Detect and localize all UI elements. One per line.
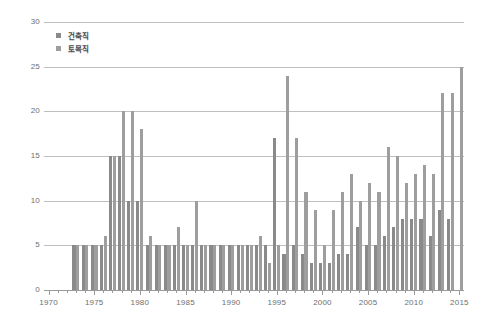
x-axis-tick bbox=[322, 290, 323, 295]
bar bbox=[359, 201, 362, 290]
bar-group bbox=[437, 22, 446, 290]
bar-group bbox=[327, 22, 336, 290]
x-axis-tick bbox=[131, 290, 132, 293]
bar bbox=[374, 245, 377, 290]
x-axis-tick-label: 1970 bbox=[29, 298, 69, 307]
x-axis-tick bbox=[368, 290, 369, 295]
bar-group bbox=[217, 22, 226, 290]
bar bbox=[246, 245, 249, 290]
bar bbox=[250, 245, 253, 290]
bar bbox=[310, 263, 313, 290]
bar bbox=[365, 245, 368, 290]
x-axis-tick bbox=[231, 290, 232, 295]
bar-group bbox=[181, 22, 190, 290]
bar bbox=[350, 174, 353, 290]
x-axis-tick bbox=[167, 290, 168, 293]
bar bbox=[273, 138, 276, 290]
bar-group bbox=[446, 22, 455, 290]
bar-group bbox=[163, 22, 172, 290]
y-axis-tick-label: 20 bbox=[6, 107, 40, 115]
x-axis-tick bbox=[286, 290, 287, 293]
bar bbox=[91, 245, 94, 290]
x-axis-tick bbox=[441, 290, 442, 293]
bar bbox=[155, 245, 158, 290]
x-axis-tick bbox=[186, 290, 187, 295]
bar bbox=[113, 156, 116, 290]
x-axis-tick-label: 1990 bbox=[211, 298, 251, 307]
bar bbox=[149, 236, 152, 290]
bar bbox=[323, 245, 326, 290]
legend-item-label: 토목직 bbox=[68, 43, 90, 54]
bar bbox=[337, 254, 340, 290]
bar bbox=[432, 174, 435, 290]
bar-group bbox=[263, 22, 272, 290]
bar bbox=[109, 156, 112, 290]
y-axis-tick-label: 5 bbox=[6, 241, 40, 249]
bar bbox=[127, 201, 130, 290]
x-axis-tick bbox=[313, 290, 314, 293]
bar-group bbox=[126, 22, 135, 290]
bar-group bbox=[345, 22, 354, 290]
bar-group bbox=[135, 22, 144, 290]
bar-group bbox=[154, 22, 163, 290]
x-axis-tick-label: 2010 bbox=[394, 298, 434, 307]
y-axis-tick-label: 15 bbox=[6, 152, 40, 160]
bar-group bbox=[254, 22, 263, 290]
legend-swatch-icon bbox=[56, 33, 61, 38]
bar bbox=[82, 245, 85, 290]
bar-group bbox=[391, 22, 400, 290]
x-axis-tick bbox=[277, 290, 278, 295]
x-axis-tick bbox=[396, 290, 397, 293]
bar bbox=[231, 245, 234, 290]
bar bbox=[447, 219, 450, 290]
bar-group bbox=[272, 22, 281, 290]
bar-group bbox=[208, 22, 217, 290]
bar bbox=[136, 201, 139, 290]
x-axis-tick-label: 1985 bbox=[166, 298, 206, 307]
bar-group bbox=[336, 22, 345, 290]
bar bbox=[410, 219, 413, 290]
legend-item: 건축직 bbox=[56, 29, 90, 42]
legend-item-label: 건축직 bbox=[68, 30, 90, 41]
bar bbox=[277, 245, 280, 290]
bar bbox=[131, 111, 134, 290]
bar-group bbox=[81, 22, 90, 290]
x-axis-tick bbox=[295, 290, 296, 293]
bar-group bbox=[354, 22, 363, 290]
y-axis-tick-label: 10 bbox=[6, 197, 40, 205]
bar-chart: 051015202530 197019751980198519901995200… bbox=[0, 0, 479, 319]
bar-group bbox=[291, 22, 300, 290]
bar bbox=[228, 245, 231, 290]
x-axis-tick bbox=[240, 290, 241, 293]
bar-group bbox=[108, 22, 117, 290]
bar bbox=[259, 236, 262, 290]
y-axis-tick-label: 0 bbox=[6, 286, 40, 294]
bar bbox=[460, 67, 463, 290]
bar bbox=[191, 245, 194, 290]
bar bbox=[401, 219, 404, 290]
bar bbox=[140, 129, 143, 290]
x-axis-tick bbox=[268, 290, 269, 293]
bar-group bbox=[309, 22, 318, 290]
bar bbox=[377, 192, 380, 290]
bar bbox=[419, 219, 422, 290]
bar bbox=[173, 245, 176, 290]
bar-group bbox=[382, 22, 391, 290]
bar bbox=[319, 263, 322, 290]
bar bbox=[268, 263, 271, 290]
bar bbox=[118, 156, 121, 290]
x-axis-tick bbox=[432, 290, 433, 293]
bar bbox=[241, 245, 244, 290]
x-axis-tick bbox=[94, 290, 95, 295]
bar-group bbox=[199, 22, 208, 290]
x-axis-tick bbox=[423, 290, 424, 293]
x-axis-tick-label: 1995 bbox=[257, 298, 297, 307]
bar bbox=[438, 210, 441, 290]
x-axis-tick bbox=[341, 290, 342, 293]
y-axis: 051015202530 bbox=[0, 22, 40, 290]
bar bbox=[146, 245, 149, 290]
bar bbox=[314, 210, 317, 290]
bar bbox=[76, 245, 79, 290]
bar bbox=[304, 192, 307, 290]
bar-group bbox=[53, 22, 62, 290]
